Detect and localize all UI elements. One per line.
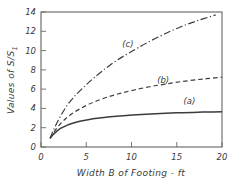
y-axis-title: Values of S/S1 <box>6 46 19 114</box>
curve-b <box>50 77 222 138</box>
curve-label-b: (b) <box>157 75 169 85</box>
y-axis-title-main: Values of S/S <box>6 50 16 114</box>
y-tick-label: 0 <box>31 142 36 152</box>
y-axis-title-subscript: 1 <box>11 46 19 51</box>
curve-a <box>50 112 222 139</box>
y-tickmarks <box>41 12 46 147</box>
y-tick-label: 2 <box>31 123 36 133</box>
y-axis-title-text: Values of S/S1 <box>6 46 19 114</box>
chart-figure: 0 2 4 6 8 10 12 14 0 5 10 15 20 Width B … <box>0 0 245 185</box>
y-tick-labels: 0 2 4 6 8 10 12 14 <box>25 7 36 152</box>
curve-label-a: (a) <box>183 96 195 106</box>
x-axis-title: Width B of Footing - ft <box>77 168 185 178</box>
x-tick-label: 20 <box>217 152 228 162</box>
line-chart: 0 2 4 6 8 10 12 14 0 5 10 15 20 Width B … <box>0 0 245 185</box>
y-tick-label: 6 <box>31 84 37 94</box>
curve-label-c: (c) <box>122 39 133 49</box>
curve-c <box>50 15 216 138</box>
y-tick-label: 12 <box>25 26 36 36</box>
x-tickmarks <box>41 142 222 147</box>
x-tick-label: 0 <box>38 152 43 162</box>
y-tick-label: 10 <box>25 46 36 56</box>
x-tick-label: 10 <box>126 152 137 162</box>
y-tick-label: 14 <box>25 7 36 17</box>
y-tick-label: 8 <box>31 65 37 75</box>
x-tick-label: 15 <box>171 152 182 162</box>
x-tick-label: 5 <box>84 152 89 162</box>
y-tick-label: 4 <box>31 103 36 113</box>
x-tick-labels: 0 5 10 15 20 <box>38 152 227 162</box>
